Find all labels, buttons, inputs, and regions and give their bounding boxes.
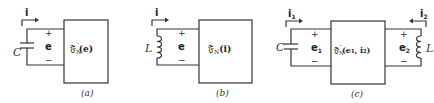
current-label: i xyxy=(25,7,28,18)
capacitor-label: C xyxy=(276,41,285,54)
inductor-icon xyxy=(157,36,162,58)
voltage-label: e xyxy=(178,41,185,52)
current-1-label: i1 xyxy=(288,8,296,20)
plus-sign: + xyxy=(45,28,53,38)
caption-a: (a) xyxy=(81,88,94,98)
minus-sign: − xyxy=(45,55,53,65)
capacitor-icon xyxy=(284,44,298,49)
panel-b: L i + e − 𝔉N(i) (b) xyxy=(144,7,252,98)
caption-b: (b) xyxy=(216,88,229,98)
network-label-c: 𝔉N″(e₁, i₂) xyxy=(334,43,371,56)
plus-sign-left: + xyxy=(311,29,319,39)
current-label: i xyxy=(155,7,158,18)
minus-sign-right: − xyxy=(400,56,408,66)
inductor-icon xyxy=(417,36,422,58)
caption-c: (c) xyxy=(351,89,364,99)
voltage-label: e xyxy=(45,41,52,52)
panel-a: C i + e − 𝔉N′(e) (a) xyxy=(13,7,108,98)
capacitor-icon xyxy=(20,43,34,48)
network-label-b: 𝔉N(i) xyxy=(208,44,231,55)
plus-sign-right: + xyxy=(400,29,408,39)
current-arrow-icon xyxy=(152,18,169,27)
minus-sign-left: − xyxy=(311,56,319,66)
capacitor-label: C xyxy=(13,46,22,59)
current-2-label: i2 xyxy=(420,8,428,20)
voltage-1-label: e1 xyxy=(311,42,322,54)
minus-sign: − xyxy=(178,55,186,65)
inductor-label: L xyxy=(144,42,152,55)
inductor-label: L xyxy=(425,42,433,55)
network-label-a: 𝔉N′(e) xyxy=(70,42,93,55)
plus-sign: + xyxy=(178,28,186,38)
circuit-diagram: C i + e − 𝔉N′(e) (a) L i + e − xyxy=(0,0,434,103)
current-arrow-icon xyxy=(22,18,39,27)
voltage-2-label: e2 xyxy=(399,42,410,54)
panel-c: C i1 + e1 − 𝔉N″(e₁, i₂) L i2 xyxy=(276,8,433,99)
